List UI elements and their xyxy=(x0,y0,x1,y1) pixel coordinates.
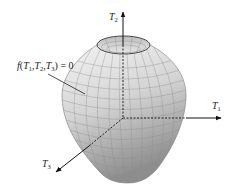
t3-axis xyxy=(56,146,89,172)
surface-body xyxy=(62,45,186,184)
t1-axis-label: T1 xyxy=(212,100,221,112)
surface-diagram: f(T1,T2,T3) = 0 T2 T1 T3 xyxy=(0,0,234,193)
surface-equation-label: f(T1,T2,T3) = 0 xyxy=(17,60,74,72)
t3-axis-label: T3 xyxy=(42,158,51,170)
t2-axis-label: T2 xyxy=(109,11,118,23)
